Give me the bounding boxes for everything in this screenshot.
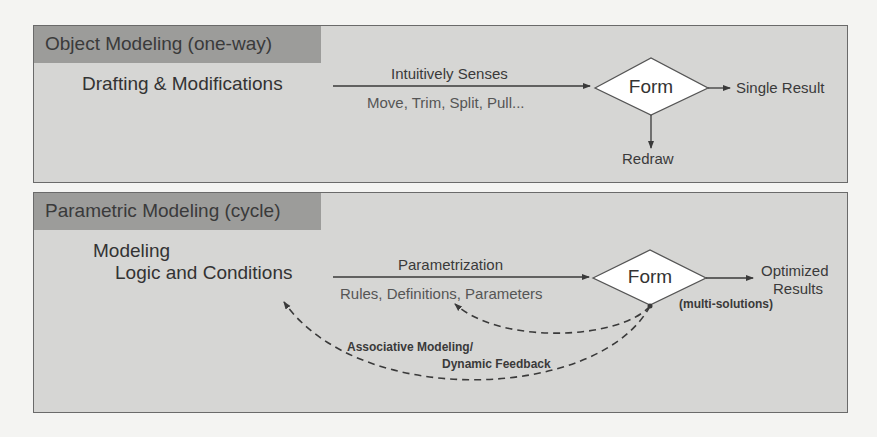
parametrization-label: Parametrization	[398, 256, 503, 273]
results-label: Results	[773, 280, 823, 297]
form-node-parametric: Form	[610, 266, 690, 288]
form-node-object: Form	[611, 76, 691, 98]
single-result-label: Single Result	[736, 79, 824, 96]
drafting-modifications-label: Drafting & Modifications	[82, 73, 283, 95]
intuitively-senses-label: Intuitively Senses	[391, 65, 508, 82]
redraw-label: Redraw	[622, 150, 674, 167]
move-trim-split-pull-label: Move, Trim, Split, Pull...	[367, 94, 525, 111]
dynamic-feedback-label: Dynamic Feedback	[442, 357, 551, 371]
multi-solutions-note: (multi-solutions)	[679, 297, 773, 311]
rules-definitions-parameters-label: Rules, Definitions, Parameters	[340, 285, 543, 302]
modeling-label: Modeling	[93, 240, 170, 262]
inner-feedback-arrow	[455, 304, 650, 333]
associative-modeling-label: Associative Modeling/	[347, 340, 473, 354]
logic-conditions-label: Logic and Conditions	[115, 262, 292, 284]
optimized-label: Optimized	[761, 262, 829, 279]
